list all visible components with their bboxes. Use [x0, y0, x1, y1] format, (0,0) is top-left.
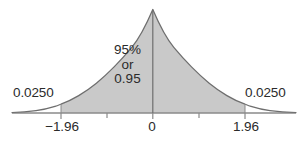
center-proportion-label: 0.95: [104, 72, 151, 87]
axis-tick-label-zero: 0: [139, 120, 165, 134]
normal-distribution-figure: 0.0250 0.0250 95% or 0.95 −1.96 0 1.96: [0, 0, 308, 144]
right-tail-probability-label: 0.0250: [245, 86, 286, 100]
center-area-annotation: 95% or 0.95: [104, 43, 151, 87]
center-conjunction-label: or: [104, 58, 151, 73]
axis-tick-label-positive: 1.96: [224, 120, 268, 134]
axis-tick-label-negative: −1.96: [35, 120, 89, 134]
left-tail-probability-label: 0.0250: [13, 86, 54, 100]
center-percent-label: 95%: [104, 43, 151, 58]
